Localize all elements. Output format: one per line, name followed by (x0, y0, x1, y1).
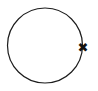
circle-outline (8, 8, 83, 83)
figure-canvas: ✖ (0, 0, 98, 91)
x-marker-icon: ✖ (77, 41, 90, 54)
